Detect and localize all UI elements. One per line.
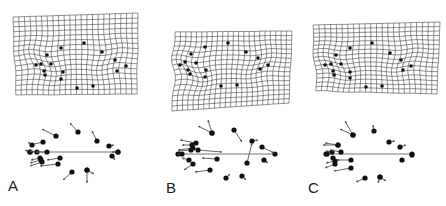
landmark-dot [335, 142, 340, 147]
landmark-dot [339, 62, 343, 66]
deformation-figure [0, 0, 446, 206]
landmark-dot [44, 149, 49, 154]
landmark-dot [113, 58, 117, 62]
landmark-dot [261, 157, 266, 162]
landmark-dot [39, 62, 43, 66]
displacement-arrow [92, 131, 100, 144]
landmark-dot [377, 174, 382, 179]
landmark-dot [350, 132, 355, 137]
landmark-dot [364, 85, 368, 89]
landmark-dot [329, 62, 333, 66]
landmark-dot [409, 64, 413, 68]
displacement-arrow [63, 169, 75, 180]
displacement-arrow [195, 167, 213, 172]
landmark-vector-plot [175, 120, 277, 181]
landmark-dot [69, 169, 74, 174]
deformation-grid [313, 22, 440, 94]
landmark-dot [334, 53, 338, 57]
arrowhead-icon [40, 165, 42, 167]
displacement-arrow [377, 174, 382, 183]
landmark-dot [266, 63, 270, 67]
landmark-dot [348, 157, 353, 162]
landmark-dot [106, 143, 111, 148]
landmark-dot [323, 63, 327, 67]
landmark-dot [259, 144, 264, 149]
displacement-arrow [42, 129, 59, 139]
landmark-dot [409, 152, 414, 157]
landmark-dot [258, 67, 262, 71]
landmark-dot [178, 63, 182, 67]
panel-label-a: A [8, 178, 18, 193]
landmark-dot [214, 156, 219, 161]
landmark-dot [91, 84, 95, 88]
landmark-dot [39, 159, 44, 164]
displacement-arrow [106, 143, 114, 148]
landmark-dot [34, 63, 38, 67]
landmark-dot [348, 165, 353, 170]
landmark-dot [82, 41, 86, 45]
landmark-dot [53, 133, 58, 138]
landmark-dot [42, 69, 46, 73]
landmark-dot [183, 60, 187, 64]
landmark-dot [195, 147, 200, 152]
landmark-dot [124, 64, 128, 68]
landmark-dot [45, 53, 49, 57]
landmark-dot [203, 45, 207, 49]
landmark-dot [189, 52, 193, 56]
landmark-dot [399, 157, 404, 162]
landmark-dot [338, 149, 343, 154]
landmark-dot [348, 70, 352, 74]
landmark-dot [209, 130, 214, 135]
landmark-dot [324, 151, 329, 156]
landmark-dot [40, 139, 45, 144]
landmark-dot [188, 72, 192, 76]
landmark-dot [61, 70, 65, 74]
landmark-dot [204, 68, 208, 72]
panel-b [172, 31, 292, 181]
landmark-dot [75, 86, 79, 90]
landmark-dot [231, 127, 236, 132]
displacement-arrow [334, 165, 354, 171]
landmark-dot [115, 69, 119, 73]
landmark-dot [401, 68, 405, 72]
landmark-dot [115, 149, 120, 154]
displacement-arrow [223, 174, 230, 181]
displacement-arrow [386, 139, 395, 144]
displacement-arrow [345, 121, 356, 138]
displacement-arrow [356, 175, 368, 182]
displacement-arrow [195, 147, 222, 153]
landmark-dot [59, 77, 63, 81]
landmark-dot [84, 167, 89, 172]
landmark-dot [194, 61, 198, 65]
arrowhead-icon [220, 151, 222, 153]
landmark-dot [388, 51, 392, 55]
landmark-dot [57, 155, 62, 160]
landmark-dot [55, 161, 60, 166]
arrowhead-icon [112, 151, 114, 153]
landmark-dot [190, 161, 195, 166]
landmark-dot [235, 83, 239, 87]
landmark-dot [188, 147, 193, 152]
displacement-arrow [109, 153, 115, 160]
landmark-dot [332, 73, 336, 77]
landmark-dot [332, 161, 337, 166]
landmark-dot [94, 138, 99, 143]
landmark-dot [49, 62, 53, 66]
panel-a [13, 13, 138, 183]
displacement-arrow [337, 157, 354, 162]
landmark-dot [397, 144, 402, 149]
displacement-arrow [259, 144, 274, 153]
arrowhead-icon [202, 157, 204, 159]
landmark-dot [348, 76, 352, 80]
displacement-arrow [249, 138, 258, 143]
displacement-arrow [184, 161, 196, 170]
landmark-dot [109, 153, 114, 158]
landmark-dot [223, 175, 228, 180]
landmark-dot [244, 160, 249, 165]
deformation-grid [13, 13, 138, 95]
displacement-arrow [397, 144, 406, 149]
panel-label-b: B [166, 180, 176, 195]
displacement-arrow [231, 127, 242, 142]
displacement-arrow [261, 157, 268, 163]
panel-label-c: C [308, 180, 319, 195]
